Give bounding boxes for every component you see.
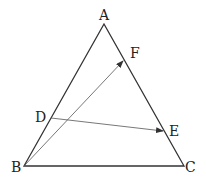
triangle-diagram: A B C D E F: [0, 0, 206, 185]
label-a: A: [98, 7, 110, 23]
triangle-abc: [24, 24, 184, 166]
label-e: E: [169, 123, 179, 139]
label-d: D: [35, 109, 46, 125]
label-f: F: [130, 45, 140, 61]
label-b: B: [11, 159, 21, 175]
vector-de: [51, 118, 163, 131]
label-c: C: [185, 159, 196, 175]
